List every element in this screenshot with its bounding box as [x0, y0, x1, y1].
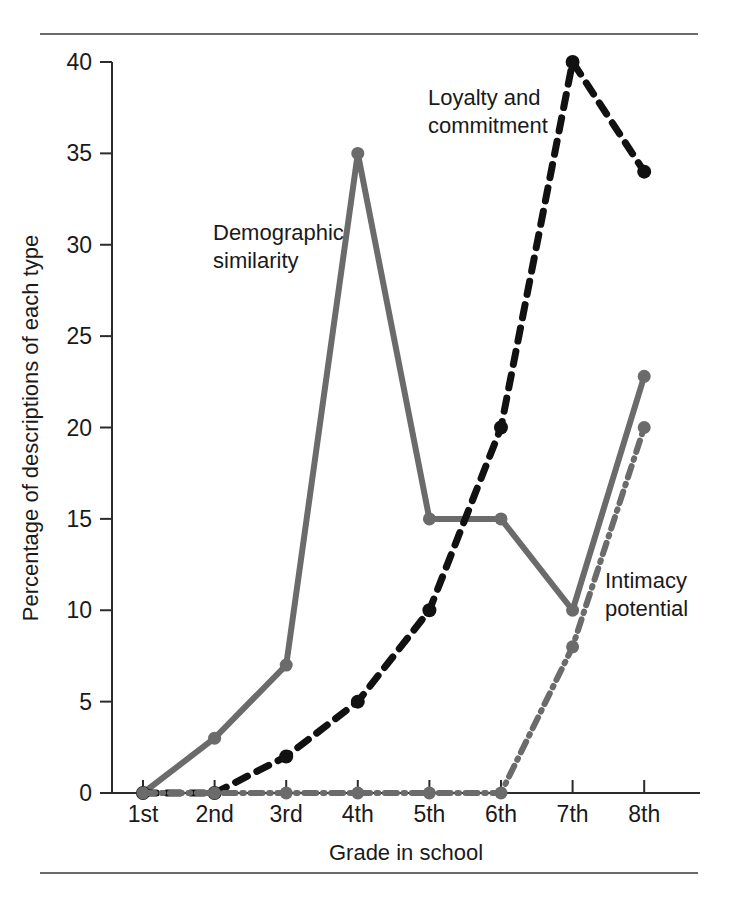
data-point — [638, 370, 651, 383]
y-tick-label: 10 — [66, 597, 92, 623]
data-point — [566, 640, 579, 653]
y-tick-label: 30 — [66, 232, 92, 258]
y-tick-label: 5 — [79, 689, 92, 715]
x-axis-title: Grade in school — [329, 840, 483, 865]
data-point — [208, 787, 221, 800]
data-point — [351, 787, 364, 800]
data-point — [208, 732, 221, 745]
y-axis-tick-labels: 0510152025303540 — [66, 49, 92, 806]
data-point — [280, 659, 293, 672]
data-point — [351, 695, 365, 709]
data-point — [566, 55, 580, 69]
data-point — [495, 512, 508, 525]
data-point — [279, 749, 293, 763]
y-axis-ticks — [100, 62, 112, 793]
series-label-demographic-similarity-line1: Demographic — [213, 220, 344, 245]
x-tick-label: 6th — [485, 801, 517, 827]
series-layer — [136, 55, 651, 800]
y-tick-label: 20 — [66, 415, 92, 441]
x-tick-label: 4th — [342, 801, 374, 827]
data-point — [495, 787, 508, 800]
series-loyalty-and-commitment — [136, 55, 651, 800]
data-point — [566, 604, 579, 617]
y-axis-title: Percentage of descriptions of each type — [18, 235, 43, 621]
x-tick-label: 1st — [128, 801, 159, 827]
y-tick-label: 25 — [66, 323, 92, 349]
series-label-loyalty-and-commitment-line1: Loyalty and — [428, 85, 541, 110]
y-tick-label: 35 — [66, 140, 92, 166]
data-point — [137, 787, 150, 800]
data-point — [423, 512, 436, 525]
data-point — [423, 787, 436, 800]
x-tick-label: 3rd — [270, 801, 303, 827]
figure-container: 0510152025303540 1st2nd3rd4th5th6th7th8t… — [0, 0, 734, 905]
data-point — [351, 147, 364, 160]
series-label-intimacy-potential-line2: potential — [605, 596, 688, 621]
series-label-demographic-similarity-line2: similarity — [213, 248, 299, 273]
x-tick-label: 5th — [413, 801, 445, 827]
data-point — [280, 787, 293, 800]
x-axis-tick-labels: 1st2nd3rd4th5th6th7th8th — [128, 801, 661, 827]
y-tick-label: 40 — [66, 49, 92, 75]
x-tick-label: 8th — [628, 801, 660, 827]
data-point — [637, 165, 651, 179]
series-line — [143, 62, 644, 793]
line-chart: 0510152025303540 1st2nd3rd4th5th6th7th8t… — [0, 0, 734, 905]
data-point — [638, 421, 651, 434]
data-point — [422, 603, 436, 617]
x-tick-label: 7th — [557, 801, 589, 827]
data-point — [494, 421, 508, 435]
series-label-loyalty-and-commitment-line2: commitment — [428, 113, 548, 138]
y-tick-label: 0 — [79, 780, 92, 806]
y-tick-label: 15 — [66, 506, 92, 532]
x-tick-label: 2nd — [195, 801, 233, 827]
series-label-intimacy-potential-line1: Intimacy — [605, 568, 687, 593]
